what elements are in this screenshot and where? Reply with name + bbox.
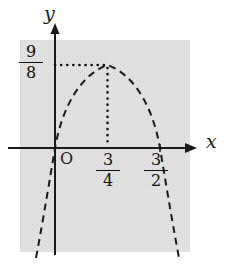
x-tick-label-three-quarters: 3 4 [96,152,120,190]
fraction-numerator: 3 [96,152,120,170]
y-tick-label-nine-eighths: 9 8 [19,44,43,82]
x-axis-label: x [206,132,217,151]
fraction-denominator: 4 [96,172,120,190]
shaded-region [20,40,190,252]
fraction-denominator: 2 [144,172,168,190]
parabola-figure: y x O 9 8 3 4 3 2 [0,0,238,270]
fraction-numerator: 9 [19,44,43,62]
x-tick-label-three-halves: 3 2 [144,152,168,190]
x-axis-arrowhead [185,143,197,153]
fraction-denominator: 8 [19,64,43,82]
y-axis-label: y [44,4,55,23]
coordinate-plot-svg [0,0,238,270]
origin-label: O [60,151,73,167]
y-axis-arrowhead [51,23,60,34]
fraction-numerator: 3 [144,152,168,170]
